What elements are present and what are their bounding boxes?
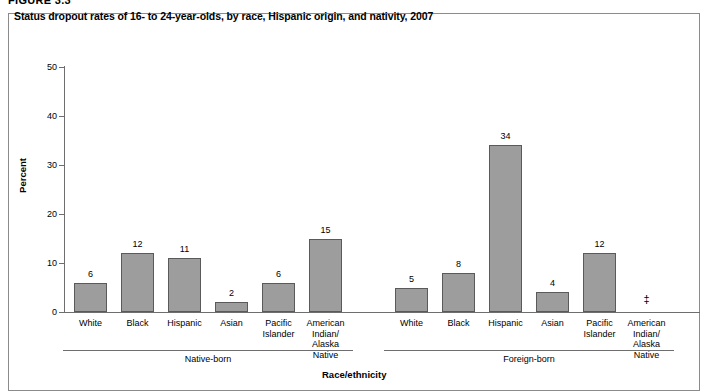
bar (489, 145, 522, 312)
y-axis-tick-mark (59, 165, 65, 166)
y-axis-tick: 50 (30, 63, 57, 72)
bar-value-label: 12 (573, 240, 626, 249)
bar-value-label: 8 (432, 260, 485, 269)
bar (442, 273, 475, 312)
suppressed-data-marker: ‡ (620, 294, 673, 305)
bar (536, 292, 569, 312)
bar-value-label: 5 (385, 275, 438, 284)
y-axis-tick: 20 (30, 210, 57, 219)
category-label: American Indian/ Alaska Native (298, 318, 353, 360)
bar-value-label: 4 (526, 279, 579, 288)
chart-title: Status dropout rates of 16- to 24-year-o… (14, 10, 433, 22)
y-axis-tick: 10 (30, 259, 57, 268)
y-axis-tick-label: 30 (35, 161, 57, 170)
y-axis-tick-mark (59, 263, 65, 264)
bar-value-label: 11 (158, 245, 211, 254)
bar-value-label: 15 (299, 226, 352, 235)
bar-value-label: 34 (479, 132, 532, 141)
bar (309, 239, 342, 313)
y-axis-tick-label: 10 (35, 259, 57, 268)
y-axis-tick-label: 40 (35, 112, 57, 121)
y-axis-tick: 40 (30, 112, 57, 121)
bar-value-label: 6 (64, 270, 117, 279)
bar-value-label: 12 (111, 240, 164, 249)
y-axis-tick: 30 (30, 161, 57, 170)
y-axis-tick-mark (59, 214, 65, 215)
group-bracket-rule (63, 350, 353, 351)
figure-number: FIGURE 3.3 (8, 0, 71, 6)
bar (168, 258, 201, 312)
group-label: Native-born (63, 355, 353, 364)
x-axis-line (64, 312, 700, 313)
y-axis-tick-mark (59, 67, 65, 68)
group-label: Foreign-born (384, 355, 674, 364)
y-axis-tick-label: 20 (35, 210, 57, 219)
bar (583, 253, 616, 312)
x-axis-title: Race/ethnicity (322, 369, 386, 380)
y-axis-tick-mark (59, 116, 65, 117)
y-axis-tick-mark (59, 312, 65, 313)
y-axis-title: Percent (17, 146, 28, 206)
bar (262, 283, 295, 312)
bar (215, 302, 248, 312)
bar (121, 253, 154, 312)
y-axis-tick-label: 50 (35, 63, 57, 72)
y-axis-tick-label: 0 (35, 308, 57, 317)
category-label: American Indian/ Alaska Native (619, 318, 674, 360)
bar-value-label: 6 (252, 270, 305, 279)
group-bracket-rule (384, 350, 674, 351)
bar (74, 283, 107, 312)
y-axis-tick: 0 (30, 308, 57, 317)
bar (395, 288, 428, 313)
bar-value-label: 2 (205, 289, 258, 298)
